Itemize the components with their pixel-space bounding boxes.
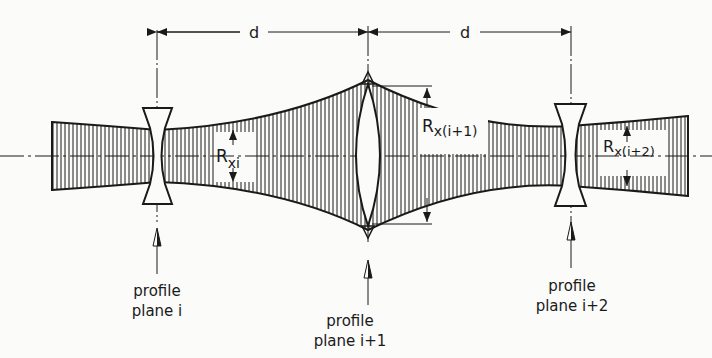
plane-pointer-i bbox=[153, 228, 161, 274]
dimension-d-2: d bbox=[460, 23, 470, 42]
plane-label-i1-line2: plane i+1 bbox=[314, 332, 387, 350]
plane-pointer-i2 bbox=[567, 222, 575, 268]
plane-label-i-line2: plane i bbox=[132, 302, 183, 320]
plane-label-i-line1: profile bbox=[133, 282, 180, 300]
plane-label-i2-line2: plane i+2 bbox=[536, 297, 609, 315]
plane-label-i2-line1: profile bbox=[548, 277, 595, 295]
plane-label-i1-line1: profile bbox=[326, 312, 373, 330]
beam-diagram: d d Rxi Rx(i+1) Rx(i+2) profile plane i … bbox=[0, 0, 712, 358]
dimension-d-1: d bbox=[249, 23, 259, 42]
plane-pointer-i1 bbox=[364, 260, 372, 305]
